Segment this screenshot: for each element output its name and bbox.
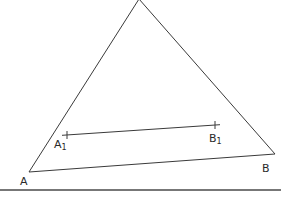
label-a: A bbox=[20, 175, 28, 188]
label-a1: A1 bbox=[54, 138, 67, 152]
label-a1-sub: 1 bbox=[62, 143, 67, 152]
label-b: B bbox=[262, 162, 270, 175]
segment-a1-b1 bbox=[62, 125, 220, 136]
label-b1-sub: 1 bbox=[217, 137, 222, 146]
label-b1-base: B bbox=[209, 132, 217, 145]
segment-a-b bbox=[29, 154, 275, 172]
geometry-diagram: A B A1 B1 bbox=[0, 0, 281, 199]
segment-apex-b bbox=[139, 0, 275, 154]
label-b1: B1 bbox=[209, 132, 222, 146]
segment-a-apex bbox=[29, 0, 139, 172]
